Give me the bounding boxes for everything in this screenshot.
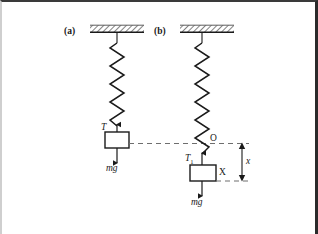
figure-caption-strip xyxy=(8,228,308,234)
figure-page: (a) (b) T mg O T1 X x mg xyxy=(0,0,318,234)
spring-a xyxy=(110,43,124,126)
origin-label-b: O xyxy=(210,134,217,144)
panel-b-label: (b) xyxy=(154,27,166,37)
ceiling-b xyxy=(180,25,234,32)
spring-mass-diagram xyxy=(2,2,318,234)
panel-a-label: (a) xyxy=(64,27,75,37)
block-b-label: X xyxy=(219,168,226,178)
ceiling-a-hatch xyxy=(90,26,144,33)
weight-label-b: mg xyxy=(191,198,203,208)
block-a xyxy=(105,132,129,148)
weight-label-a: mg xyxy=(106,164,118,174)
tension-label-b: T1 xyxy=(185,154,194,165)
ceiling-b-hatch xyxy=(180,26,234,33)
displacement-dimension-x xyxy=(239,143,245,182)
ceiling-a xyxy=(90,25,144,32)
panel-a-group xyxy=(90,25,144,163)
tension-label-b-subscript: 1 xyxy=(190,158,193,165)
spring-b xyxy=(195,43,209,154)
figure-frame: (a) (b) T mg O T1 X x mg xyxy=(0,0,318,234)
tension-label-a: T xyxy=(101,123,106,133)
block-b xyxy=(190,165,216,181)
displacement-label-x: x xyxy=(246,157,250,167)
panel-b-group xyxy=(180,25,249,196)
